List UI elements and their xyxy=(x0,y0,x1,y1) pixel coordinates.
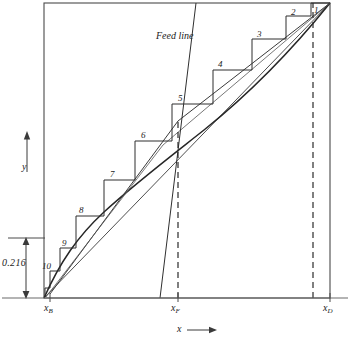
dimension-label-0216: 0.216 xyxy=(2,258,26,268)
stage-number-2: 2 xyxy=(291,8,296,17)
stage-number-9: 9 xyxy=(62,239,67,248)
x-axis-arrow-group xyxy=(187,327,217,333)
stage-number-4: 4 xyxy=(218,60,223,69)
stage-step-4 xyxy=(213,70,252,104)
dimension-0216-group xyxy=(8,237,45,299)
y-axis-arrow-head xyxy=(24,131,30,140)
alternate-rectifying-line xyxy=(163,3,330,145)
x-tick-label-xD-sub: D xyxy=(327,307,332,315)
feed-line-label: Feed line xyxy=(156,31,193,41)
stage-number-5: 5 xyxy=(178,94,183,103)
x-tick-label-xB-sub: B xyxy=(48,307,52,315)
x-axis-label: x xyxy=(177,324,181,334)
alternate-stripping-line xyxy=(46,145,163,297)
x-tick-label-xD: xD xyxy=(323,303,333,315)
diagonal-45-line xyxy=(44,3,330,298)
y-axis-label: y xyxy=(22,162,26,172)
x-tick-label-xB: xB xyxy=(44,303,53,315)
rectifying-operating-line xyxy=(178,3,330,121)
plot-canvas xyxy=(0,0,350,341)
x-axis-arrow-head xyxy=(209,327,217,333)
stage-number-3: 3 xyxy=(257,30,262,39)
stage-number-1: 1 xyxy=(314,6,319,15)
stage-number-8: 8 xyxy=(79,206,84,215)
stage-number-7: 7 xyxy=(110,170,115,179)
stage-number-10: 10 xyxy=(42,262,51,271)
x-tick-label-xF: xF xyxy=(171,303,180,315)
stripping-operating-line xyxy=(50,121,178,294)
x-tick-label-xF-sub: F xyxy=(175,307,179,315)
stage-step-8 xyxy=(76,216,104,248)
stage-number-6: 6 xyxy=(141,131,146,140)
mccabe-thiele-figure: Feed line 0.216 y x xB xF xD 1 2 3 4 5 6… xyxy=(0,0,350,341)
